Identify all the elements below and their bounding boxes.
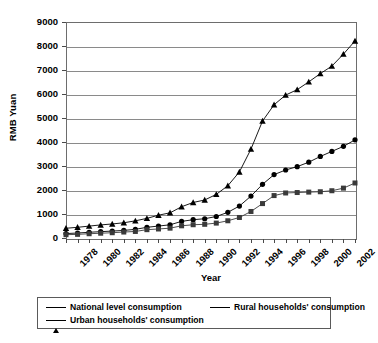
x-axis-tick-mark: [135, 239, 136, 243]
data-point-triangle: [213, 191, 219, 197]
legend-line: [210, 307, 230, 308]
x-axis-tick-mark: [158, 239, 159, 243]
series-square: [64, 180, 358, 237]
data-point-circle: [306, 160, 311, 165]
y-axis-tick-label: 5000: [16, 113, 58, 123]
data-point-triangle: [294, 86, 300, 92]
y-axis-tick-label: 8000: [16, 41, 58, 51]
x-axis-tick-label: 1998: [308, 246, 331, 269]
data-point-circle: [202, 216, 207, 221]
y-axis-tick-label: 9000: [16, 17, 58, 27]
legend-marker: [53, 318, 59, 328]
x-axis-tick-mark: [309, 239, 310, 243]
chart-legend: National level consumptionRural househol…: [37, 297, 331, 329]
x-axis-tick-label: 1980: [100, 246, 123, 269]
x-axis-tick-label: 1990: [216, 246, 239, 269]
data-point-circle: [248, 194, 253, 199]
data-point-triangle: [248, 146, 254, 152]
x-axis-tick-mark: [263, 239, 264, 243]
y-axis-tick-label: 1000: [16, 209, 58, 219]
data-point-square: [318, 189, 323, 194]
consumption-line-chart: RMB Yuan 0100020003000400050006000700080…: [0, 0, 378, 343]
data-point-square: [144, 227, 149, 232]
data-point-square: [214, 221, 219, 226]
data-point-square: [329, 188, 334, 193]
x-axis-tick-mark: [343, 239, 344, 243]
y-axis-tick-label: 6000: [16, 89, 58, 99]
data-point-circle: [191, 217, 196, 222]
series-triangle: [63, 38, 358, 231]
data-point-circle: [329, 149, 334, 154]
legend-entry[interactable]: Rural households' consumption: [210, 302, 365, 312]
data-point-circle: [237, 203, 242, 208]
data-point-circle: [318, 154, 323, 159]
series-line: [66, 183, 355, 235]
legend-label: Rural households' consumption: [234, 302, 365, 312]
series-line: [66, 140, 355, 234]
x-axis-tick-mark: [239, 239, 240, 243]
x-axis-tick-mark: [297, 239, 298, 243]
data-point-square: [260, 201, 265, 206]
x-axis-tick-label: 1988: [193, 246, 216, 269]
legend-entry[interactable]: National level consumption: [46, 302, 182, 312]
data-point-square: [295, 190, 300, 195]
x-axis-tick-mark: [228, 239, 229, 243]
data-point-triangle: [317, 70, 323, 76]
legend-square-marker: [210, 303, 230, 312]
legend-label: National level consumption: [70, 302, 182, 312]
x-axis-tick-label: 1994: [262, 246, 285, 269]
x-axis-tick-label: 1984: [147, 246, 170, 269]
data-point-square: [156, 226, 161, 231]
data-point-circle: [295, 164, 300, 169]
x-axis-tick-mark: [170, 239, 171, 243]
legend-triangle-marker: [46, 316, 66, 325]
x-axis-tick-label: 1982: [123, 246, 146, 269]
x-axis-tick-mark: [66, 239, 67, 243]
legend-label: Urban households' consumption: [70, 315, 204, 325]
data-point-triangle: [236, 169, 242, 175]
data-point-triangle: [202, 197, 208, 203]
y-axis-tick-label: 3000: [16, 161, 58, 171]
x-axis-tick-mark: [124, 239, 125, 243]
data-point-square: [341, 186, 346, 191]
x-axis-tick-mark: [89, 239, 90, 243]
data-point-circle: [283, 167, 288, 172]
x-axis-tick-mark: [286, 239, 287, 243]
data-point-square: [237, 215, 242, 220]
x-axis-tick-mark: [332, 239, 333, 243]
data-point-square: [110, 230, 115, 235]
data-point-square: [353, 180, 358, 185]
data-point-circle: [179, 219, 184, 224]
x-axis-tick-mark: [251, 239, 252, 243]
data-point-square: [283, 190, 288, 195]
x-axis-tick-mark: [193, 239, 194, 243]
x-axis-tick-mark: [78, 239, 79, 243]
series-layer: [66, 22, 355, 238]
data-point-square: [191, 222, 196, 227]
y-axis-tick-label: 7000: [16, 65, 58, 75]
data-point-triangle: [306, 79, 312, 85]
data-point-circle: [352, 137, 357, 142]
data-point-square: [133, 229, 138, 234]
data-point-circle: [214, 214, 219, 219]
data-point-square: [168, 226, 173, 231]
x-axis-tick-label: 1996: [285, 246, 308, 269]
y-axis-tick-label: 4000: [16, 137, 58, 147]
data-point-circle: [341, 144, 346, 149]
triangle-marker-icon: [53, 318, 59, 333]
y-axis-tick-label: 0: [16, 233, 58, 243]
x-axis-tick-mark: [320, 239, 321, 243]
legend-entry[interactable]: Urban households' consumption: [46, 315, 204, 325]
x-axis-tick-mark: [216, 239, 217, 243]
x-axis-tick-mark: [274, 239, 275, 243]
data-point-triangle: [282, 92, 288, 98]
x-axis-tick-mark: [182, 239, 183, 243]
data-point-circle: [260, 182, 265, 187]
x-axis-title: Year: [66, 272, 356, 283]
legend-circle-marker: [46, 303, 66, 312]
data-point-square: [225, 218, 230, 223]
data-point-square: [202, 222, 207, 227]
series-circle: [63, 137, 357, 236]
data-point-triangle: [178, 204, 184, 210]
x-axis-tick-label: 1986: [170, 246, 193, 269]
